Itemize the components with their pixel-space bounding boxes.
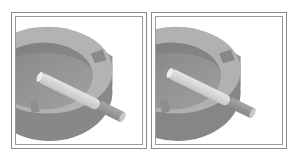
panel-left xyxy=(11,12,147,149)
panel-left-inner-frame xyxy=(15,16,143,145)
panel-right xyxy=(151,12,287,149)
ashtray-illustration-left xyxy=(16,17,142,144)
figure xyxy=(0,0,296,160)
ashtray-illustration-right xyxy=(156,17,282,144)
panel-right-inner-frame xyxy=(155,16,283,145)
